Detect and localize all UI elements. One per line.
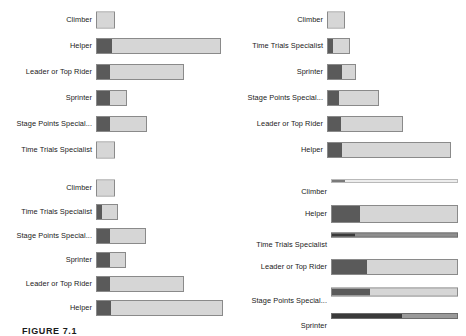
stacked-bar	[96, 300, 223, 316]
bar-row: Stage Points Special...	[0, 226, 233, 246]
bar-row-label: Helper	[233, 210, 331, 217]
bar-track	[96, 226, 233, 246]
bar-rows: Climber Time Trials Specialist	[0, 174, 233, 324]
bar-track	[96, 178, 233, 198]
bar-row-label: Stage Points Special...	[233, 94, 327, 101]
bar-track	[96, 140, 233, 160]
bar-segment-light	[102, 205, 117, 219]
stacked-bar	[96, 276, 184, 292]
stacked-bar	[331, 313, 458, 319]
bar-segment-dark	[97, 39, 112, 53]
bar-row: Leader or Top Rider	[233, 114, 466, 134]
bar-track	[96, 10, 233, 30]
stacked-bar	[331, 179, 458, 183]
bar-segment-dark	[328, 65, 342, 79]
chart-panel-bottom-left: Climber Time Trials Specialist	[0, 174, 233, 324]
bar-row: Helper	[233, 140, 466, 160]
bar-segment-light	[339, 91, 378, 105]
figure-chart-grid: Climber Helper Leader	[0, 0, 466, 336]
stacked-bar	[96, 142, 115, 159]
stacked-bar	[327, 12, 345, 29]
bar-track	[96, 250, 233, 270]
stacked-bar	[96, 252, 126, 268]
bar-row-label: Climber	[0, 16, 96, 23]
bar-row-label: Stage Points Special...	[0, 120, 96, 127]
bar-segment-light	[342, 143, 450, 157]
bar-track	[327, 88, 466, 108]
bar-track	[96, 298, 233, 318]
bar-segment-dark	[328, 91, 339, 105]
bar-row: Leader or Top Rider	[233, 258, 466, 282]
bar-row: Time Trials Specialist	[0, 202, 233, 222]
bar-track	[96, 36, 233, 56]
stacked-bar	[96, 38, 221, 54]
bar-row: Time Trials Specialist	[233, 36, 466, 56]
bar-row: Sprinter	[233, 312, 466, 334]
bar-track	[96, 202, 233, 222]
bar-segment-dark	[332, 260, 367, 274]
bar-segment-dark	[97, 277, 110, 291]
bar-track	[96, 62, 233, 82]
bar-row: Helper	[233, 204, 466, 228]
bar-row-label: Time Trials Specialist	[0, 146, 96, 153]
bar-segment-dark	[97, 117, 110, 131]
bar-track	[331, 204, 458, 224]
stacked-bar	[96, 116, 147, 132]
chart-panel-bottom-right: Climber Helper Time Tr	[233, 174, 466, 334]
bar-segment-dark	[332, 314, 402, 318]
stacked-bar	[327, 90, 379, 106]
bar-row-label: Helper	[0, 304, 96, 311]
bar-segment-light	[355, 234, 458, 237]
bar-row-label: Stage Points Special...	[0, 232, 96, 239]
bar-track	[96, 114, 233, 134]
bar-segment-light	[97, 13, 114, 28]
bar-row-label: Climber	[0, 184, 96, 191]
bar-segment-light	[328, 13, 344, 28]
bar-row-label: Time Trials Specialist	[233, 241, 331, 248]
stacked-bar	[327, 142, 451, 158]
stacked-bar	[96, 228, 146, 244]
bar-row: Time Trials Specialist	[0, 140, 233, 160]
bar-track	[96, 274, 233, 294]
stacked-bar	[331, 205, 458, 223]
bar-segment-light	[341, 117, 402, 131]
stacked-bar	[96, 180, 115, 197]
bar-segment-light	[367, 260, 457, 274]
stacked-bar	[96, 64, 184, 80]
bar-track	[327, 10, 466, 30]
bar-segment-light	[360, 206, 458, 222]
bar-rows: Climber Helper Time Tr	[233, 174, 466, 334]
bar-segment-dark	[332, 206, 360, 222]
bar-row-label: Sprinter	[233, 322, 331, 329]
bar-row-label: Time Trials Specialist	[0, 208, 96, 215]
bar-track	[96, 88, 233, 108]
chart-panel-top-left: Climber Helper Leader	[0, 4, 233, 170]
bar-row: Climber	[233, 178, 466, 200]
stacked-bar	[96, 12, 115, 29]
bar-segment-dark	[97, 301, 111, 315]
bar-segment-dark	[97, 91, 110, 105]
bar-row-label: Leader or Top Rider	[0, 68, 96, 75]
figure-caption: FIGURE 7.1	[22, 327, 77, 336]
bar-track	[327, 62, 466, 82]
bar-track	[327, 36, 466, 56]
bar-segment-dark	[332, 234, 355, 237]
chart-panel-top-right: Climber Time Trials Specialist	[233, 4, 466, 170]
bar-segment-dark	[97, 229, 110, 243]
bar-row: Leader or Top Rider	[0, 274, 233, 294]
bar-row-label: Helper	[233, 146, 327, 153]
stacked-bar	[327, 64, 356, 80]
stacked-bar	[331, 259, 458, 275]
bar-segment-light	[110, 277, 183, 291]
bar-row-label: Stage Points Special...	[233, 297, 331, 304]
bar-row: Sprinter	[233, 62, 466, 82]
bar-row: Leader or Top Rider	[0, 62, 233, 82]
bar-segment-light	[110, 117, 146, 131]
bar-segment-light	[97, 143, 114, 158]
bar-row: Stage Points Special...	[233, 286, 466, 308]
bar-rows: Climber Helper Leader	[0, 4, 233, 170]
bar-segment-dark	[97, 65, 110, 79]
bar-row: Climber	[0, 10, 233, 30]
stacked-bar	[331, 233, 458, 238]
bar-row-label: Climber	[233, 16, 327, 23]
